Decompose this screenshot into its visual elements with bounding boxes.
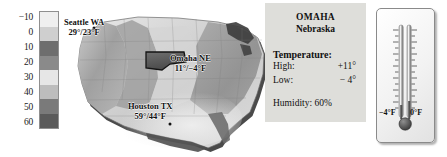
thermometer-ticks-right xyxy=(412,30,418,108)
map-label-houston[interactable]: Houston TX 59°/44°F xyxy=(128,102,172,121)
legend-label: 50 xyxy=(8,100,36,115)
city-name: Seattle WA xyxy=(64,17,104,27)
thermometer-label-left: −4°F xyxy=(379,108,396,117)
high-value: +11° xyxy=(338,60,356,74)
legend-label: −10 xyxy=(8,10,36,25)
legend-swatch xyxy=(40,99,58,114)
thermometer-tube-left xyxy=(399,25,403,117)
map-label-omaha[interactable]: Omaha NE 11°/−4°F xyxy=(170,54,211,73)
legend-label: 30 xyxy=(8,70,36,85)
city-name: Omaha NE xyxy=(170,53,211,63)
thermometer-graphic xyxy=(377,9,434,142)
legend-label-column: −10 0 10 20 30 40 50 60 xyxy=(8,10,36,130)
thermometer-ticks-left xyxy=(393,30,399,108)
legend-swatch xyxy=(40,70,58,85)
weather-widget: −10 0 10 20 30 40 50 60 xyxy=(0,0,447,157)
legend-label: 10 xyxy=(8,40,36,55)
temperature-low-row: Low: − 4° xyxy=(265,74,366,88)
map-label-seattle[interactable]: Seattle WA 29°/23°F xyxy=(64,18,104,37)
legend-label: 60 xyxy=(8,115,36,130)
thermometer-label-right: 0°F xyxy=(410,108,422,117)
legend-swatch xyxy=(40,56,58,71)
high-label: High: xyxy=(273,60,295,74)
legend-label: 20 xyxy=(8,55,36,70)
legend-swatch xyxy=(40,27,58,42)
city-temps: 11°/−4°F xyxy=(170,64,211,74)
temperature-heading: Temperature: xyxy=(265,49,366,60)
low-value: − 4° xyxy=(340,74,356,88)
city-temps: 59°/44°F xyxy=(128,112,172,122)
legend-swatch xyxy=(40,12,58,27)
legend-color-bar xyxy=(39,11,59,129)
info-city-name: OMAHA xyxy=(265,12,366,24)
temperature-legend: −10 0 10 20 30 40 50 60 xyxy=(8,10,64,130)
temperature-high-row: High: +11° xyxy=(265,60,366,74)
thermometer-bulb xyxy=(399,118,411,130)
us-map[interactable]: Seattle WA 29°/23°F Omaha NE 11°/−4°F Ho… xyxy=(58,2,273,154)
city-marker-houston[interactable] xyxy=(169,123,172,126)
mercury-column-left xyxy=(400,105,402,119)
city-temps: 29°/23°F xyxy=(64,28,104,38)
city-info-panel: OMAHA Nebraska Temperature: High: +11° L… xyxy=(265,3,366,122)
legend-label: 0 xyxy=(8,25,36,40)
legend-label: 40 xyxy=(8,85,36,100)
low-label: Low: xyxy=(273,74,293,88)
humidity-value: Humidity: 60% xyxy=(265,98,366,108)
legend-swatch xyxy=(40,41,58,56)
thermometer-card[interactable]: −4°F 0°F xyxy=(376,8,435,143)
info-state-name: Nebraska xyxy=(265,24,366,36)
city-name: Houston TX xyxy=(128,101,172,111)
legend-swatch xyxy=(40,85,58,100)
legend-swatch xyxy=(40,114,58,129)
